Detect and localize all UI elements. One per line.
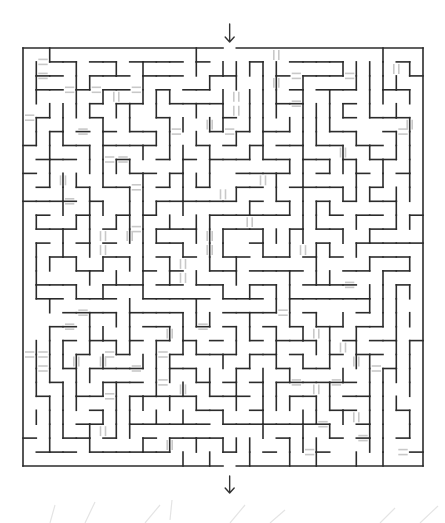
maze-puzzle xyxy=(0,0,445,523)
grass-stroke xyxy=(270,510,285,523)
grass-stroke xyxy=(420,506,438,523)
exit-arrow xyxy=(225,476,234,493)
grass-stroke xyxy=(50,505,55,523)
grass-stroke xyxy=(170,500,172,520)
maze-walls xyxy=(23,48,423,466)
grass-stroke xyxy=(230,505,245,523)
grass-stroke xyxy=(85,502,95,523)
background-grass-decoration xyxy=(50,500,438,523)
grass-stroke xyxy=(380,508,395,523)
grass-stroke xyxy=(145,505,160,523)
exit-arrow-icon xyxy=(225,476,234,493)
entrance-arrow xyxy=(225,24,234,42)
entrance-arrow-icon xyxy=(225,24,234,42)
maze-bridges xyxy=(25,50,412,455)
